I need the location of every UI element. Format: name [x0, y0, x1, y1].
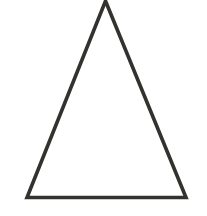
triangle-figure	[0, 0, 207, 216]
drawing-canvas	[0, 0, 207, 216]
